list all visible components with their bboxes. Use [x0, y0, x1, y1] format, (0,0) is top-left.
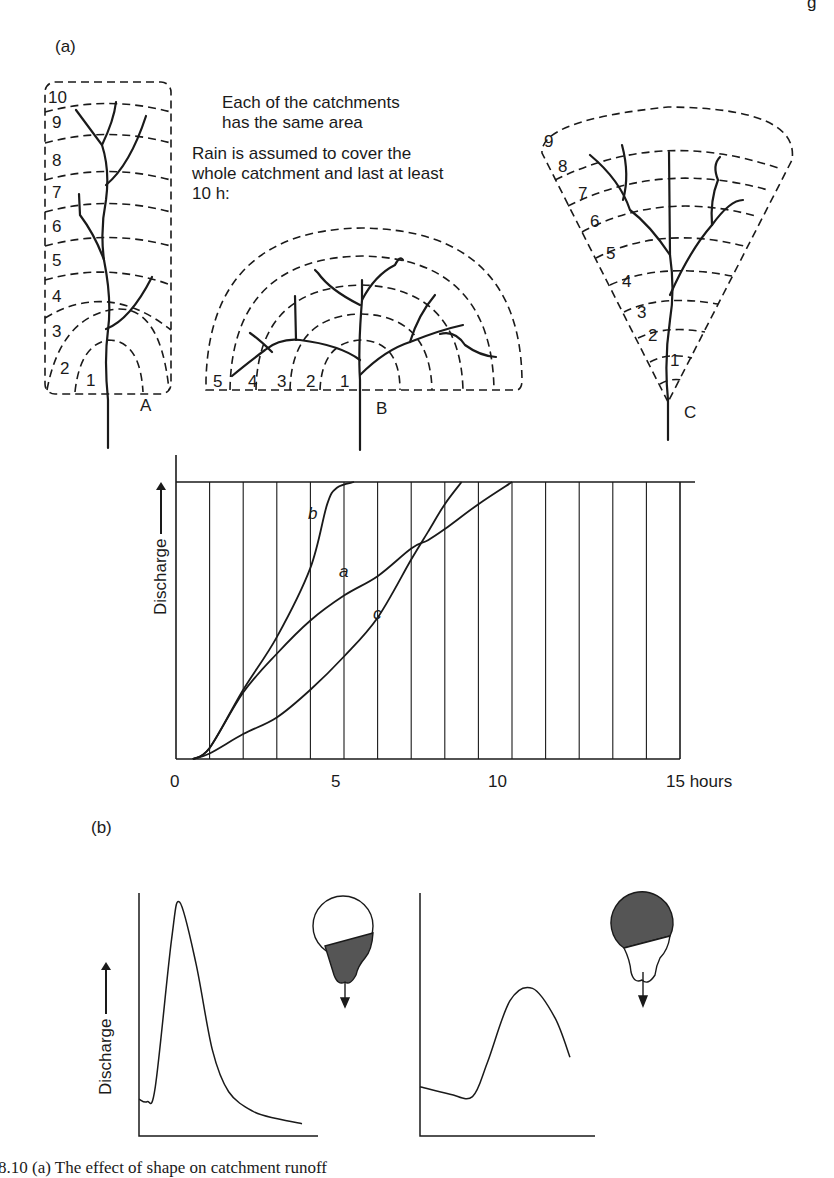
catchment-shaded-upper-icon — [611, 892, 673, 1006]
figure-caption: 8.10 (a) The effect of shape on catchmen… — [0, 1158, 327, 1178]
catchment-shaded-lower-icon — [313, 896, 373, 1007]
arrow-up-icon — [105, 964, 107, 1014]
hydrograph-curve-2 — [420, 987, 570, 1098]
hydrograph-curve-1 — [139, 901, 302, 1123]
